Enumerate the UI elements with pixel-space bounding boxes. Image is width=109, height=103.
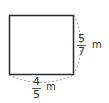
width-dimension-arc: [9, 75, 74, 83]
width-fraction: 4 5: [32, 77, 41, 100]
height-numerator: 5: [78, 34, 85, 44]
width-numerator: 4: [33, 77, 40, 87]
width-denominator: 5: [33, 90, 40, 100]
height-fraction: 5 7: [77, 34, 86, 57]
width-unit: m: [46, 81, 56, 92]
height-unit: m: [92, 39, 102, 50]
rectangle: [10, 16, 74, 75]
height-denominator: 7: [78, 47, 85, 57]
